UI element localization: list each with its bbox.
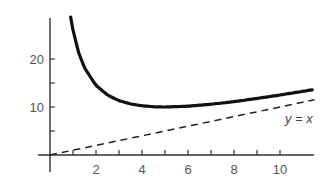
x-tick-label: 10 <box>273 162 287 177</box>
curve-line <box>71 17 313 107</box>
x-ticks: 246810 <box>73 150 287 177</box>
x-tick-label: 6 <box>184 162 191 177</box>
x-tick-label: 8 <box>230 162 237 177</box>
annotation-label: y = x <box>284 111 313 126</box>
y-tick-label: 10 <box>30 100 44 115</box>
chart: 246810 1020 y = x <box>0 0 329 177</box>
identity-line <box>50 100 315 155</box>
x-tick-label: 4 <box>138 162 145 177</box>
y-ticks: 1020 <box>30 52 55 131</box>
x-tick-label: 2 <box>92 162 99 177</box>
y-tick-label: 20 <box>30 52 44 67</box>
